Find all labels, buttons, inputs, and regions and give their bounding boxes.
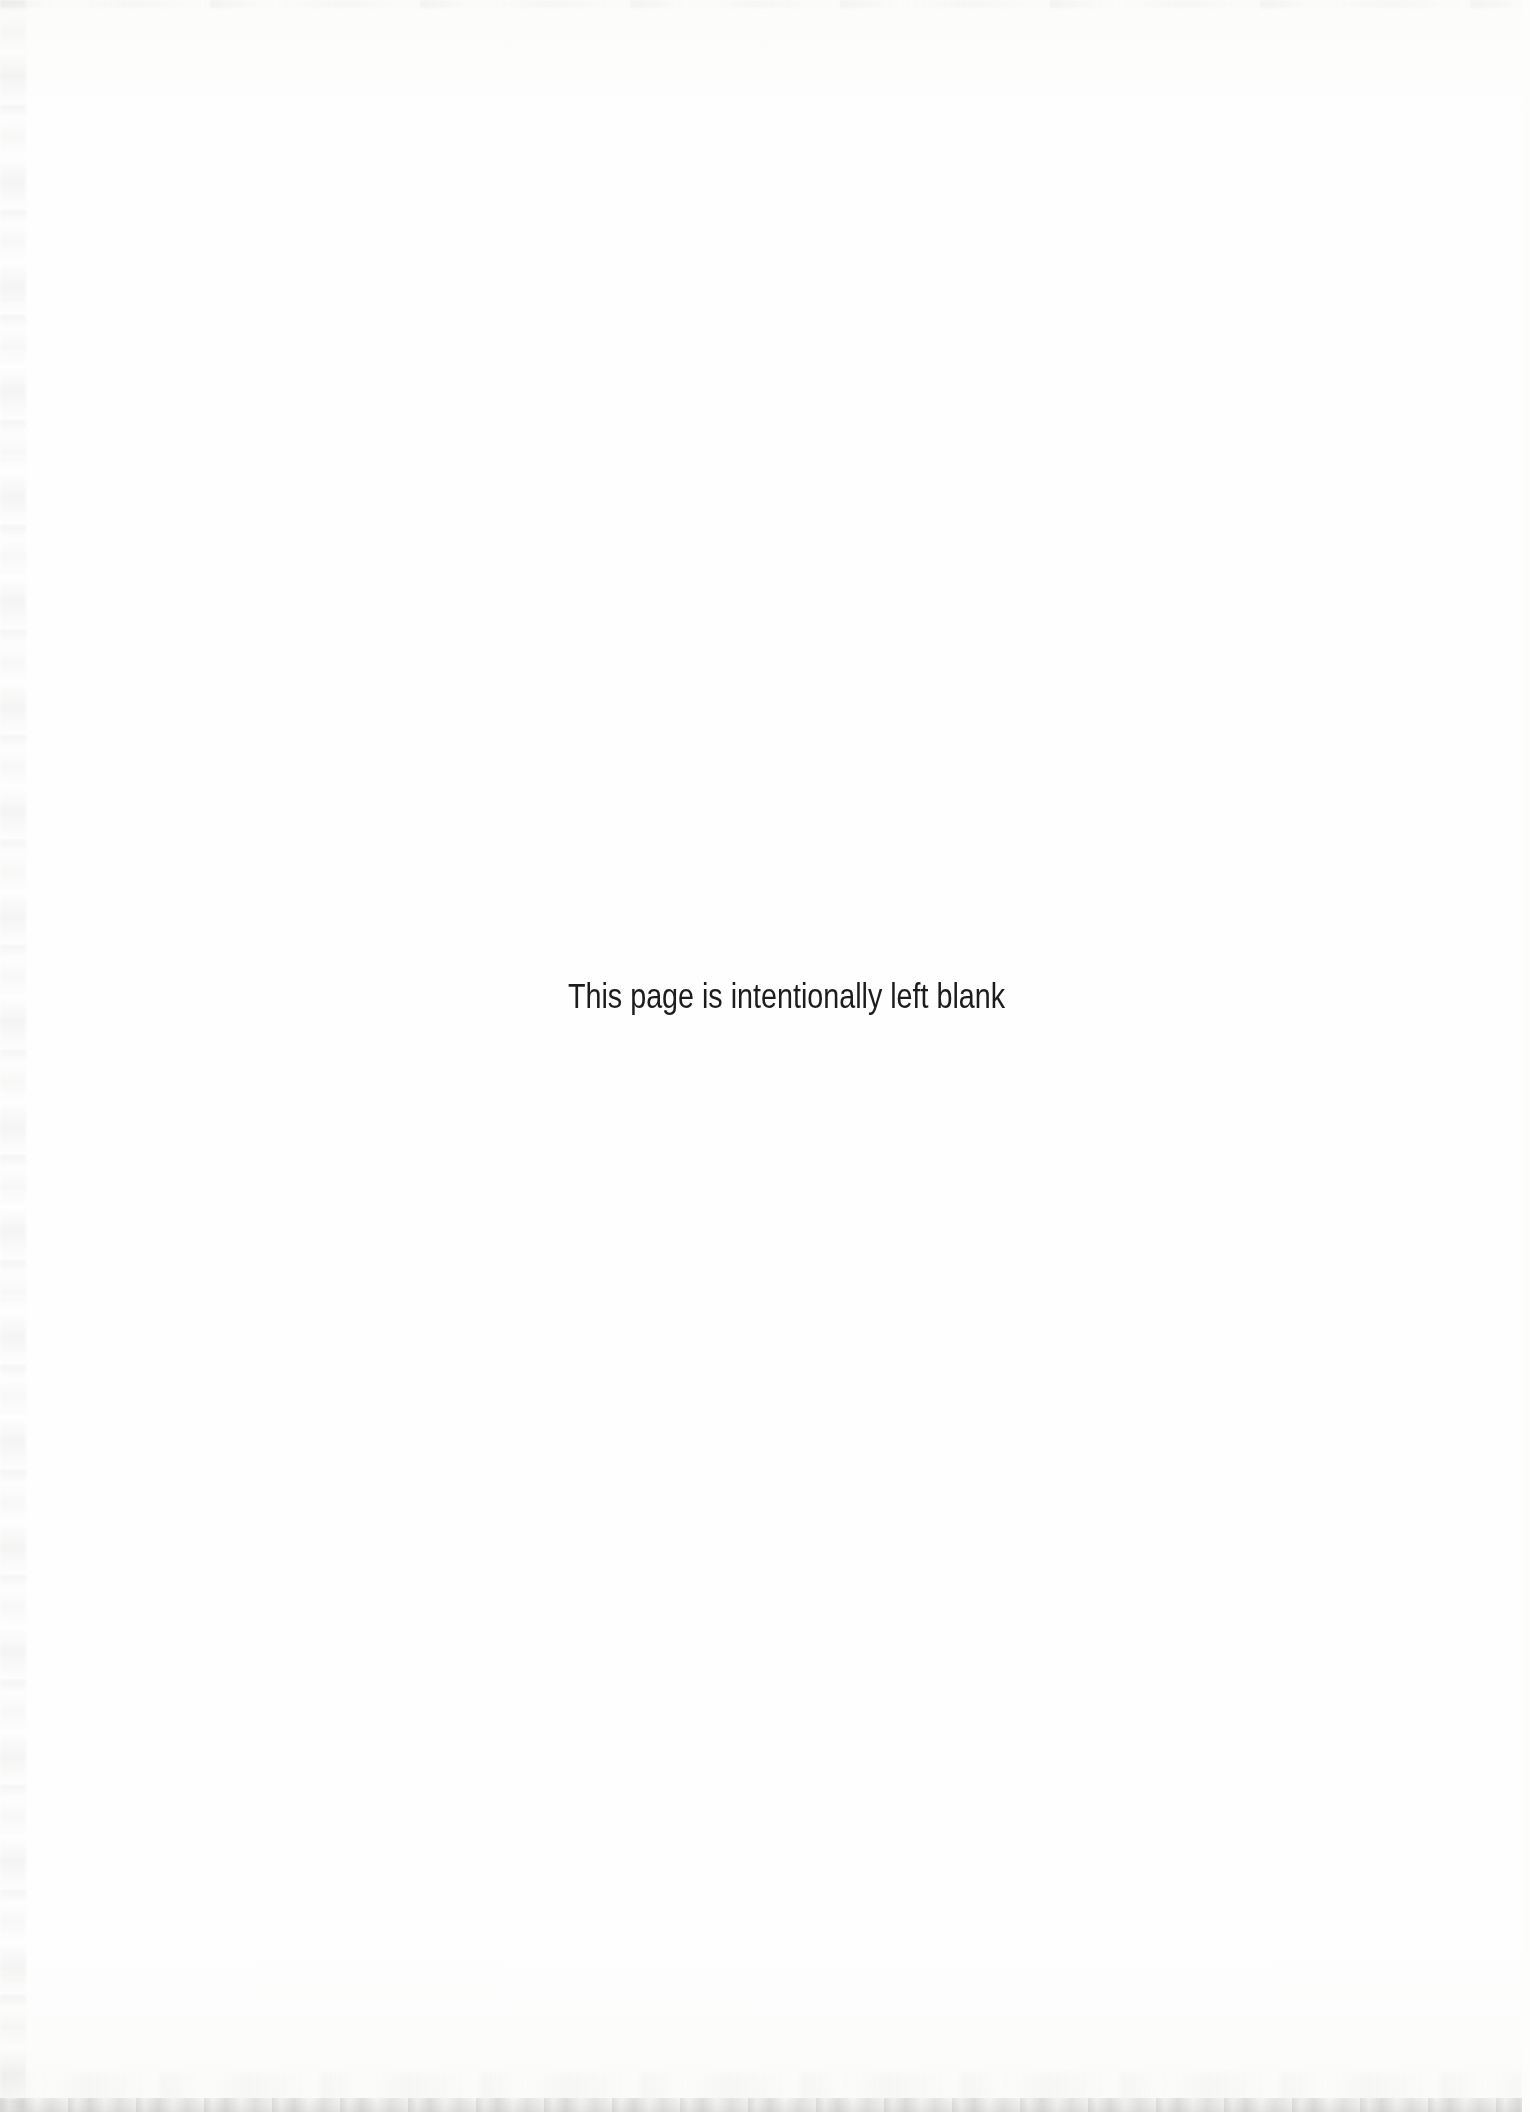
scan-edge-top bbox=[0, 0, 1522, 8]
scan-edge-bottom bbox=[0, 2098, 1522, 2112]
blank-page-message-row: This page is intentionally left blank bbox=[26, 975, 1530, 1017]
scan-edge-bottom-soft bbox=[0, 2072, 1522, 2102]
scan-edge-left bbox=[0, 0, 26, 2112]
blank-page-message: This page is intentionally left blank bbox=[568, 975, 1005, 1017]
